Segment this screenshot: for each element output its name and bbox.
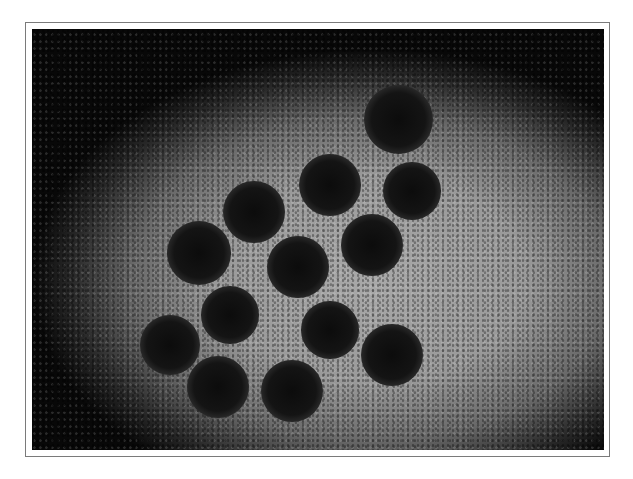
micrograph-image	[32, 29, 604, 450]
virus-particle	[341, 214, 403, 276]
virus-particle	[267, 236, 329, 298]
virus-particle	[383, 162, 441, 220]
virus-particle	[301, 301, 359, 359]
virus-particle	[223, 181, 285, 243]
virus-particle	[201, 286, 259, 344]
virus-particle	[187, 356, 249, 418]
virus-particle	[261, 360, 323, 422]
virus-particle	[361, 324, 423, 386]
virus-particle	[167, 221, 231, 285]
virus-particle	[299, 154, 361, 216]
virus-particle	[364, 85, 433, 154]
virus-particle	[140, 315, 200, 375]
